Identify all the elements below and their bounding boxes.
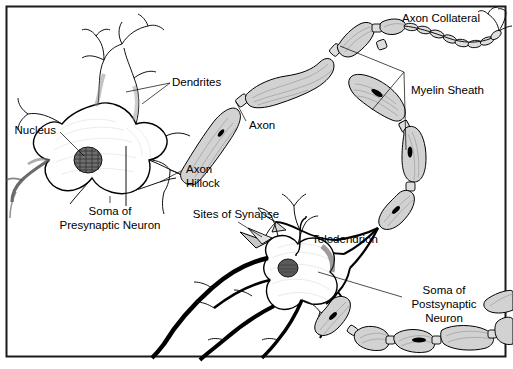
node-of-ranvier [406, 182, 415, 191]
label-myelin-sheath: Myelin Sheath [411, 84, 484, 96]
label-soma-pre-line2: Presynaptic Neuron [60, 219, 161, 231]
neuron-diagram-figure: Dendrites Nucleus Axon Axon Hillock Soma… [0, 0, 513, 369]
postsynaptic-nucleus [278, 259, 298, 277]
label-axon-collateral: Axon Collateral [402, 12, 480, 24]
neuron-diagram-canvas: Dendrites Nucleus Axon Axon Hillock Soma… [0, 0, 513, 369]
label-telodendrion: Telodendrion [312, 233, 378, 245]
label-soma-post-line1: Soma of [423, 284, 467, 296]
label-axon-hillock-line2: Hillock [186, 177, 220, 189]
label-sites-of-synapse: Sites of Synapse [193, 208, 279, 220]
label-soma-pre-line1: Soma of [89, 205, 133, 217]
label-axon-hillock-line1: Axon [186, 163, 212, 175]
label-soma-post-line2: Postsynaptic [411, 298, 476, 310]
label-soma-post-line3: Neuron [425, 312, 463, 324]
presynaptic-nucleus [74, 147, 102, 173]
label-nucleus: Nucleus [14, 124, 56, 136]
label-dendrites: Dendrites [172, 76, 221, 88]
label-axon: Axon [249, 119, 275, 131]
node-of-ranvier [432, 336, 441, 344]
